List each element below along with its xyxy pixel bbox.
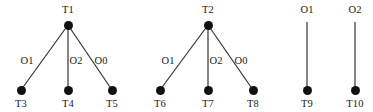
node-label-t7: T7 [202,98,214,109]
edge-label-t2-t8: O0 [234,55,247,66]
node-t8[interactable] [249,86,258,95]
edge-label-t2-t7: O2 [209,55,222,66]
node-label-t5: T5 [106,98,118,109]
node-label-t4: T4 [62,98,74,109]
node-label-t10: T10 [346,98,364,109]
node-t10[interactable] [351,86,360,95]
node-label-t1: T1 [62,4,74,15]
graph-diagram: T1 T3 O1 T4 O2 T5 O0 T2 T6 O1 T7 O2 T8 O… [0,0,373,112]
node-t6[interactable] [156,86,165,95]
edge-layer [0,0,373,112]
node-t1[interactable] [64,21,73,30]
node-t7[interactable] [204,86,213,95]
node-t5[interactable] [108,86,117,95]
node-t4[interactable] [64,86,73,95]
edge-label-t1-t5: O0 [94,55,107,66]
edge-label-t1-t4: O2 [69,55,82,66]
node-label-t6: T6 [154,98,166,109]
node-t9[interactable] [303,86,312,95]
edge-label-t1-t3: O1 [20,55,33,66]
node-label-t9: T9 [301,98,313,109]
node-label-t2: T2 [202,4,214,15]
node-label-t3: T3 [15,98,27,109]
edge-label-o2-t10: O2 [348,4,361,15]
edge-label-o1-t9: O1 [300,4,313,15]
edge-label-t2-t6: O1 [161,55,174,66]
node-t2[interactable] [204,21,213,30]
node-t3[interactable] [17,86,26,95]
node-label-t8: T8 [247,98,259,109]
